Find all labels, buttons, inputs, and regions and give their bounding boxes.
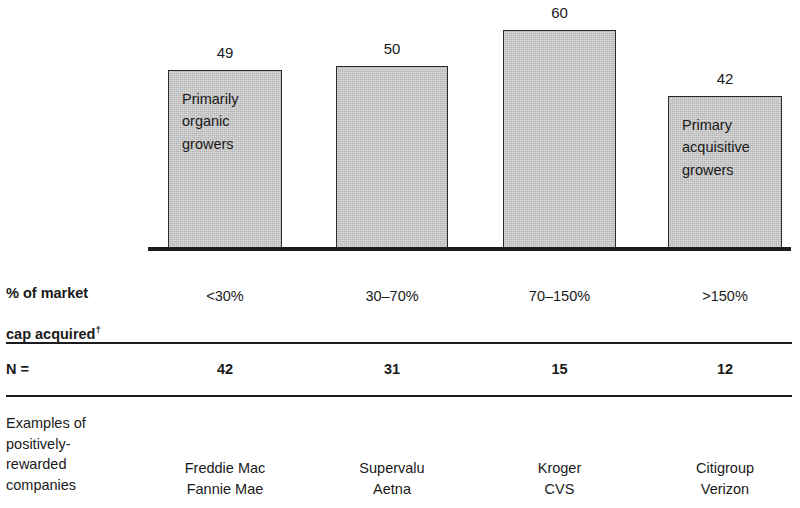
n-cell-4: 12 xyxy=(668,359,782,380)
market-cap-cell-2: 30–70% xyxy=(336,286,448,307)
bar-group-1: 49 Primarily organic growers xyxy=(168,70,282,248)
n-cell-1: 42 xyxy=(168,359,282,380)
table-rule-top xyxy=(6,342,792,344)
axis-baseline xyxy=(148,247,791,251)
row-label-examples: Examples of positively- rewarded compani… xyxy=(6,413,86,495)
market-cap-cell-4: >150% xyxy=(668,286,782,307)
dagger-footnote-marker: † xyxy=(95,324,100,335)
bar-rect-1: Primarily organic growers xyxy=(168,70,282,248)
bar-value-4: 42 xyxy=(668,70,782,87)
bar-group-3: 60 xyxy=(503,30,616,248)
n-cell-3: 15 xyxy=(503,359,616,380)
plot-area: 49 Primarily organic growers 50 60 42 Pr… xyxy=(0,0,800,252)
bar-rect-2 xyxy=(336,66,448,248)
examples-cell-4: Citigroup Verizon xyxy=(668,458,782,499)
row-label-market-cap: % of market cap acquired† xyxy=(6,262,101,344)
market-cap-cell-1: <30% xyxy=(168,286,282,307)
examples-cell-1: Freddie Mac Fannie Mae xyxy=(168,458,282,499)
bar-value-1: 49 xyxy=(168,44,282,61)
n-cell-2: 31 xyxy=(336,359,448,380)
bar-rect-3 xyxy=(503,30,616,248)
row-label-n: N = xyxy=(6,359,29,380)
examples-cell-2: Supervalu Aetna xyxy=(336,458,448,499)
table-rule-bottom xyxy=(6,395,792,397)
row-label-market-cap-line1: % of market xyxy=(6,285,88,301)
bar-annotation-4: Primary acquisitive growers xyxy=(682,114,750,181)
examples-cell-3: Kroger CVS xyxy=(503,458,616,499)
bar-group-4: 42 Primary acquisitive growers xyxy=(668,96,782,248)
market-cap-cell-3: 70–150% xyxy=(503,286,616,307)
bar-value-3: 60 xyxy=(503,4,616,21)
bar-annotation-1: Primarily organic growers xyxy=(182,88,238,155)
bar-chart-figure: 49 Primarily organic growers 50 60 42 Pr… xyxy=(0,0,800,508)
row-label-market-cap-line2: cap acquired xyxy=(6,326,95,342)
bar-group-2: 50 xyxy=(336,66,448,248)
bar-rect-4: Primary acquisitive growers xyxy=(668,96,782,248)
bar-value-2: 50 xyxy=(336,40,448,57)
